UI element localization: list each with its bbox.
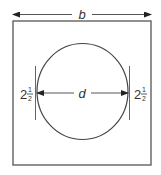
right-margin-label: 2 1 2 [134,86,147,102]
width-label: b [78,7,85,22]
left-margin-numerator: 1 [28,86,32,93]
width-dimension: b [13,7,151,22]
left-margin-label: 2 1 2 [20,86,33,102]
diagram-canvas: b d 2 1 2 2 1 2 [0,0,161,175]
diameter-label: d [78,86,86,101]
right-margin-denominator: 2 [142,95,146,102]
left-margin-denominator: 2 [28,95,32,102]
diameter-dimension: d [37,86,128,101]
right-margin-numerator: 1 [142,86,146,93]
left-margin-whole: 2 [20,87,27,102]
right-margin-whole: 2 [134,87,141,102]
